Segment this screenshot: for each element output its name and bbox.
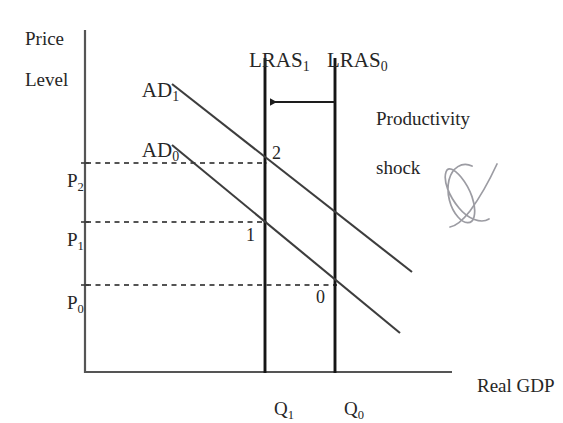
quantity-tick-label-q0: Q0 <box>325 378 364 423</box>
equilibrium-point-2-label: 2 <box>272 144 281 163</box>
productivity-shock-annotation: Productivity shock <box>357 83 470 205</box>
quantity-tick-sub-q1: 1 <box>288 407 294 421</box>
lras0-label-sub: 0 <box>381 59 388 74</box>
ad0-label-sub: 0 <box>172 149 179 164</box>
quantity-tick-sub-q0: 0 <box>358 407 364 421</box>
lras1-label: LRAS1 <box>228 26 310 97</box>
price-tick-label-p2: P2 <box>48 150 84 214</box>
ad1-label-sub: 1 <box>172 89 179 104</box>
y-axis-title-line2: Level <box>25 69 68 90</box>
price-tick-sub-p2: 2 <box>78 179 84 193</box>
y-axis-title-line1: Price <box>25 28 64 49</box>
price-tick-base-p0: P <box>67 292 78 313</box>
price-tick-sub-p1: 1 <box>78 238 84 252</box>
price-tick-label-p1: P1 <box>48 209 84 273</box>
x-axis-title: Real GDP <box>458 355 555 417</box>
quantity-tick-base-q1: Q <box>274 398 288 419</box>
ad0-label-base: AD <box>142 138 172 162</box>
price-tick-sub-p0: 0 <box>78 301 84 315</box>
lras0-label-base: LRAS <box>327 48 381 72</box>
productivity-shock-line2: shock <box>376 157 420 178</box>
equilibrium-point-1-label: 1 <box>246 226 255 245</box>
price-tick-base-p1: P <box>67 229 78 250</box>
ad1-label-base: AD <box>142 78 172 102</box>
y-axis-title: Price Level <box>6 8 68 111</box>
equilibrium-point-0-label: 0 <box>316 288 325 307</box>
quantity-tick-base-q0: Q <box>344 398 358 419</box>
x-axis-title-text: Real GDP <box>477 375 555 396</box>
lras1-label-base: LRAS <box>249 48 303 72</box>
price-tick-label-p0: P0 <box>48 272 84 336</box>
ad0-label: AD0 <box>122 116 179 187</box>
quantity-tick-label-q1: Q1 <box>255 378 294 423</box>
productivity-shock-line1: Productivity <box>376 108 470 129</box>
price-tick-base-p2: P <box>67 170 78 191</box>
